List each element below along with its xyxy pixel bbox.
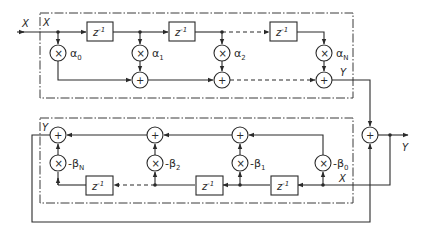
svg-text:×: × [55, 158, 63, 169]
bottom-input-label: X [338, 173, 347, 184]
svg-text:+: + [320, 75, 328, 86]
bottom-output-label: Y [42, 122, 49, 133]
svg-text:α2: α2 [234, 47, 246, 62]
junction-dot [153, 183, 157, 187]
svg-text:×: × [237, 158, 245, 169]
multiplier-alpha-1: × α1 [132, 45, 164, 62]
svg-text:×: × [152, 158, 160, 169]
filter-diagram: X X z-1 z-1 z-1 [0, 0, 429, 230]
svg-text:α1: α1 [152, 47, 164, 62]
svg-text:+: + [218, 75, 226, 86]
adder: + [50, 127, 66, 143]
svg-text:-β0: -β0 [333, 157, 348, 172]
adder: + [147, 127, 163, 143]
multiplier-alpha-n: × αN [316, 45, 349, 62]
outer-input-label: X [21, 18, 30, 29]
adder: + [316, 72, 332, 88]
svg-text:αN: αN [336, 47, 349, 62]
bottom-section: + + + Y × -βN × -β2 × -β1 [42, 122, 348, 195]
multiplier-beta-0: × -β0 [315, 155, 348, 172]
delay-block: z-1 [169, 22, 195, 41]
multiplier-alpha-0: × α0 [50, 45, 82, 62]
multiplier-alpha-2: × α2 [214, 45, 246, 62]
svg-text:+: + [366, 130, 374, 141]
multiplier-beta-2: × -β2 [147, 155, 180, 172]
top-input-label: X [42, 17, 51, 28]
junction-dot [238, 183, 242, 187]
svg-text:+: + [151, 130, 159, 141]
svg-text:×: × [320, 158, 328, 169]
svg-text:+: + [136, 75, 144, 86]
delay-block: z-1 [271, 176, 298, 195]
adder: + [214, 72, 230, 88]
delay-block: z-1 [87, 22, 113, 41]
svg-text:×: × [219, 48, 227, 59]
adder: + [132, 72, 148, 88]
top-section: X X z-1 z-1 z-1 [17, 17, 370, 126]
svg-text:×: × [55, 48, 63, 59]
multiplier-beta-n: × -βN [50, 155, 84, 172]
outer-output-label: Y [402, 142, 409, 153]
svg-text:+: + [236, 130, 244, 141]
top-output-label: Y [340, 67, 347, 78]
svg-text:α0: α0 [70, 47, 82, 62]
svg-text:-βN: -βN [68, 157, 84, 172]
svg-text:×: × [137, 48, 145, 59]
delay-block: z-1 [86, 176, 113, 195]
svg-text:-β2: -β2 [165, 157, 180, 172]
svg-text:+: + [54, 130, 62, 141]
svg-text:-β1: -β1 [250, 157, 265, 172]
delay-block: z-1 [270, 22, 297, 41]
multiplier-beta-1: × -β1 [232, 155, 265, 172]
output-section: + Y [32, 127, 409, 222]
svg-text:×: × [321, 48, 329, 59]
delay-block: z-1 [196, 176, 223, 195]
adder: + [232, 127, 248, 143]
output-adder: + [362, 127, 378, 143]
